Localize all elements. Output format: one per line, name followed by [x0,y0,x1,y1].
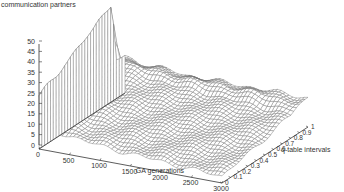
svg-text:35: 35 [27,69,35,76]
svg-text:15: 15 [27,110,35,117]
x-axis-label: GA generations [136,167,185,175]
svg-text:0: 0 [225,179,229,186]
svg-text:10: 10 [27,121,35,128]
plot-area: 0510152025303540455005001000150020002500… [0,0,344,192]
svg-text:2000: 2000 [152,174,168,181]
svg-text:1: 1 [311,123,315,130]
svg-text:20: 20 [27,100,35,107]
surface-chart: communication partners 05101520253035404… [0,0,344,192]
svg-text:5: 5 [31,131,35,138]
svg-text:2500: 2500 [183,179,199,186]
y-axis-label: q-table intervals [281,146,331,154]
svg-text:0: 0 [36,151,40,158]
svg-text:50: 50 [27,38,35,45]
svg-text:25: 25 [27,90,35,97]
svg-text:30: 30 [27,79,35,86]
chart-title: communication partners [1,1,76,8]
svg-text:40: 40 [27,58,35,65]
svg-text:45: 45 [27,48,35,55]
svg-text:0: 0 [31,142,35,149]
svg-text:500: 500 [63,157,75,164]
svg-text:1000: 1000 [91,162,107,169]
svg-text:3000: 3000 [213,185,229,192]
